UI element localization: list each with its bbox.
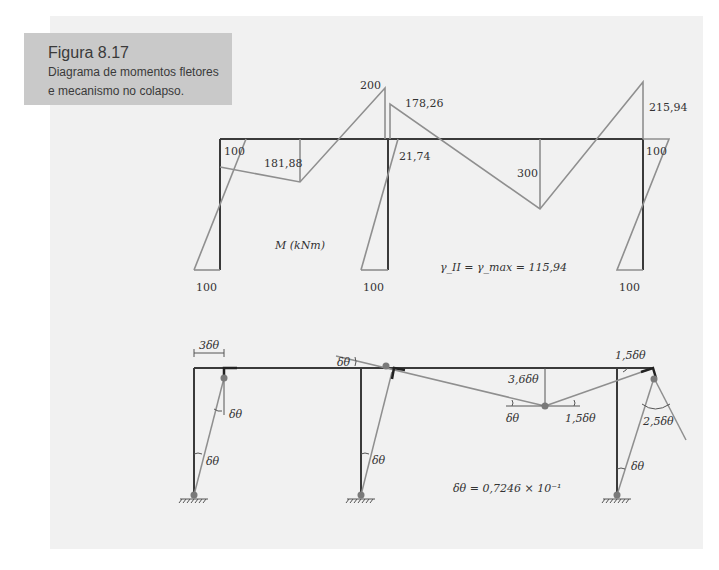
rigid-joints — [224, 368, 656, 379]
original-frame — [194, 368, 653, 495]
angle-beam-hinge-left: δθ — [506, 412, 520, 425]
load-factor-label: γ_II = γ_max = 115,94 — [440, 261, 567, 274]
hinge-base-left — [191, 492, 198, 499]
angle-middle-column-base: δθ — [372, 454, 386, 467]
moment-label-base-right: 100 — [619, 281, 640, 294]
hinge-middle-top — [383, 363, 390, 370]
angle-left-column-base: δθ — [206, 455, 220, 468]
hinge-left-column-top — [221, 375, 228, 382]
moment-label-base-middle: 100 — [363, 281, 384, 294]
angle-right-knee-top: 1,5δθ — [615, 349, 646, 362]
hinge-base-right — [614, 492, 621, 499]
deformed-frame — [194, 356, 686, 495]
collapse-mechanism: 3δθ δθ δθ δθ δθ 3,6δθ δθ 1,5δθ 1,5δθ 2,5… — [179, 339, 686, 503]
angle-right-column-base: δθ — [631, 460, 645, 473]
moment-label-300: 300 — [517, 167, 538, 180]
angle-left-column-top: δθ — [229, 408, 243, 421]
moment-label-peak-200: 200 — [360, 79, 381, 92]
moment-unit-label: M (kNm) — [274, 239, 325, 252]
moment-label-21: 21,74 — [399, 150, 431, 163]
angle-beam-hinge-vertical: 3,6δθ — [508, 373, 539, 386]
plastic-hinges — [191, 363, 658, 499]
angle-right-knee-rotation: 2,5δθ — [642, 415, 674, 428]
moment-label-left-knee: 100 — [224, 145, 245, 158]
hinge-right-knee — [651, 376, 658, 383]
delta-theta-value: δθ = 0,7246 × 10⁻¹ — [453, 482, 561, 495]
sway-label: 3δθ — [199, 339, 220, 352]
moment-label-178: 178,26 — [405, 97, 444, 110]
moment-curve — [194, 82, 669, 270]
hinge-base-middle — [358, 492, 365, 499]
angle-beam-hinge-right: 1,5δθ — [565, 412, 596, 425]
moment-label-215: 215,94 — [649, 101, 688, 114]
moment-label-right-knee: 100 — [646, 145, 667, 158]
fixed-supports — [179, 499, 631, 503]
moment-diagram: 100 181,88 200 178,26 21,74 300 215,94 1… — [194, 79, 688, 294]
hinge-beam — [542, 403, 549, 410]
moment-label-base-left: 100 — [196, 281, 217, 294]
structural-diagram: 100 181,88 200 178,26 21,74 300 215,94 1… — [0, 0, 719, 570]
moment-label-left-span: 181,88 — [264, 157, 303, 170]
angle-middle-top: δθ — [337, 356, 351, 369]
